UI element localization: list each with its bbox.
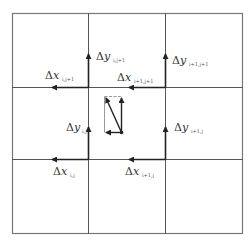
svg-text:Δx: Δx — [117, 71, 132, 84]
svg-text:i,j: i,j — [82, 128, 87, 135]
svg-text:Δx: Δx — [53, 165, 68, 178]
svg-text:i,j+1: i,j+1 — [62, 76, 74, 83]
label-dx-i-j: Δx i,j — [53, 165, 75, 179]
svg-text:Δy: Δy — [172, 54, 187, 67]
svg-text:Δx: Δx — [125, 165, 140, 178]
svg-text:i+1,j+1: i+1,j+1 — [189, 61, 208, 68]
center-node — [120, 131, 124, 135]
label-dy-i1-j: Δy i+1,j — [174, 121, 204, 135]
svg-text:Δy: Δy — [66, 121, 81, 134]
svg-text:i+1,j: i+1,j — [142, 172, 155, 179]
svg-text:Δx: Δx — [45, 69, 60, 82]
svg-text:Δy: Δy — [96, 50, 111, 63]
label-dx-i1-j1: Δx i+1,j+1 — [117, 71, 153, 85]
staggered-grid-diagram: Δy i,j+1 Δx i,j+1 Δy i+1,j+1 Δx i+1,j+1 … — [0, 0, 251, 242]
center-arrow-diagonal — [106, 98, 122, 133]
svg-text:i+1,j+1: i+1,j+1 — [134, 78, 153, 85]
svg-text:i,j+1: i,j+1 — [113, 57, 125, 64]
svg-text:i+1,j: i+1,j — [191, 128, 204, 135]
svg-text:Δy: Δy — [174, 121, 189, 134]
label-dy-i-j1: Δy i,j+1 — [96, 50, 125, 64]
label-dx-i-j1: Δx i,j+1 — [45, 69, 74, 83]
label-dx-i1-j: Δx i+1,j — [125, 165, 155, 179]
grid-outer-border — [13, 14, 243, 234]
center-vector-box — [105, 97, 124, 135]
label-dy-i-j: Δy i,j — [66, 121, 87, 135]
svg-text:i,j: i,j — [70, 172, 75, 179]
label-dy-i1-j1: Δy i+1,j+1 — [172, 54, 208, 68]
